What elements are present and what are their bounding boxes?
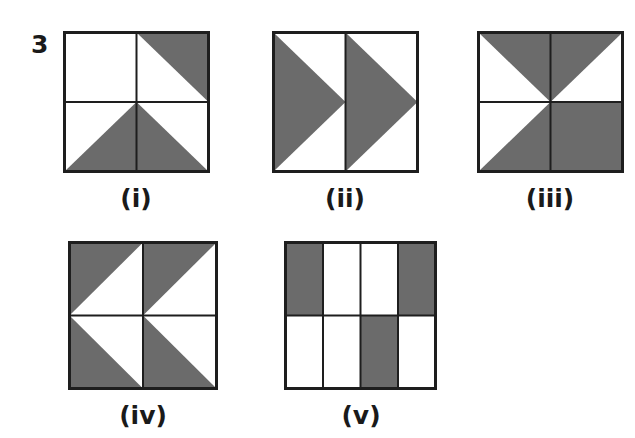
- figure-v-label: (v): [281, 401, 441, 430]
- figure-ii-label: (ii): [265, 184, 425, 213]
- figure-ii: [272, 31, 419, 173]
- figure-ii-graphic: [272, 31, 419, 173]
- figure-i-graphic: [63, 31, 210, 173]
- figure-iv: [68, 241, 218, 390]
- figure-iii-graphic: [477, 31, 624, 173]
- question-number: 3: [31, 30, 48, 59]
- figure-v-graphic: [284, 241, 437, 390]
- figure-iv-label: (iv): [63, 401, 223, 430]
- figure-iii-label: (iii): [470, 184, 630, 213]
- figure-i-label: (i): [56, 184, 216, 213]
- figure-iv-graphic: [68, 241, 218, 390]
- figure-v: [284, 241, 437, 390]
- figure-i: [63, 31, 210, 173]
- figure-iii: [477, 31, 624, 173]
